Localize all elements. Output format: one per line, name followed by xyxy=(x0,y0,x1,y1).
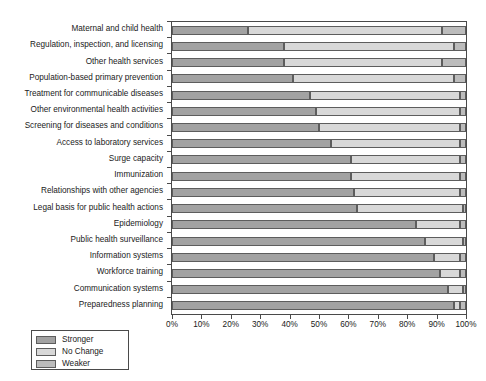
category-label: Screening for diseases and conditions xyxy=(25,118,167,134)
y-axis-tick xyxy=(167,281,171,282)
bar-row xyxy=(172,91,466,100)
bar-segment-no-change xyxy=(310,91,460,100)
category-label: Treatment for communicable diseases xyxy=(25,86,168,102)
bars-layer xyxy=(172,22,466,314)
legend-label-stronger: Stronger xyxy=(62,335,93,344)
bar-segment-weaker xyxy=(442,26,466,35)
x-axis-tick xyxy=(172,315,173,319)
y-axis-tick xyxy=(167,264,171,265)
bar-segment-no-change xyxy=(316,107,460,116)
bar-row xyxy=(172,155,466,164)
y-axis-tick xyxy=(167,183,171,184)
bar-segment-no-change xyxy=(331,139,460,148)
x-axis-tick-label: 100% xyxy=(446,320,486,329)
legend-item-weaker[interactable]: Weaker xyxy=(36,358,124,369)
category-label: Information systems xyxy=(90,248,167,264)
category-label: Communication systems xyxy=(74,281,167,297)
category-label: Relationships with other agencies xyxy=(41,183,167,199)
category-label: Access to laboratory services xyxy=(57,135,167,151)
x-axis-tick xyxy=(348,315,349,319)
bar-row xyxy=(172,139,466,148)
stacked-bar-chart: Maternal and child healthRegulation, ins… xyxy=(0,0,486,381)
bar-segment-stronger xyxy=(172,123,319,132)
bar-segment-no-change xyxy=(448,285,463,294)
y-axis-tick xyxy=(167,118,171,119)
bar-segment-weaker xyxy=(463,237,466,246)
category-label: Regulation, inspection, and licensing xyxy=(30,37,167,53)
bar-row xyxy=(172,74,466,83)
category-label: Epidemiology xyxy=(114,216,167,232)
bar-segment-weaker xyxy=(463,285,466,294)
bar-segment-weaker xyxy=(454,42,466,51)
y-axis-tick xyxy=(167,53,171,54)
bar-segment-no-change xyxy=(351,155,460,164)
category-label: Immunization xyxy=(114,167,167,183)
bar-segment-stronger xyxy=(172,188,354,197)
legend-item-no-change[interactable]: No Change xyxy=(36,346,124,357)
category-label: Other environmental health activities xyxy=(31,102,167,118)
bar-segment-stronger xyxy=(172,58,284,67)
category-label: Population-based primary prevention xyxy=(29,70,167,86)
bar-segment-no-change xyxy=(440,269,461,278)
bar-row xyxy=(172,237,466,246)
bar-segment-no-change xyxy=(434,253,460,262)
bar-segment-stronger xyxy=(172,204,357,213)
bar-segment-stronger xyxy=(172,220,416,229)
legend-item-stronger[interactable]: Stronger xyxy=(36,334,124,345)
bar-row xyxy=(172,42,466,51)
bar-row xyxy=(172,26,466,35)
bar-segment-stronger xyxy=(172,139,331,148)
bar-segment-weaker xyxy=(460,155,466,164)
legend-swatch-no-change xyxy=(36,348,56,356)
bar-segment-stronger xyxy=(172,172,351,181)
x-axis-tick xyxy=(378,315,379,319)
bar-segment-weaker xyxy=(460,139,466,148)
bar-segment-no-change xyxy=(284,42,455,51)
category-label: Preparedness planning xyxy=(79,297,167,313)
bar-row xyxy=(172,269,466,278)
x-axis-tick xyxy=(407,315,408,319)
bar-segment-no-change xyxy=(416,220,460,229)
bar-segment-weaker xyxy=(460,123,466,132)
y-axis-tick xyxy=(167,102,171,103)
legend-swatch-weaker xyxy=(36,360,56,368)
bar-segment-stronger xyxy=(172,285,448,294)
y-axis-tick xyxy=(167,37,171,38)
bar-segment-no-change xyxy=(319,123,460,132)
x-axis-tick xyxy=(231,315,232,319)
legend-label-weaker: Weaker xyxy=(62,359,90,368)
bar-segment-stronger xyxy=(172,74,293,83)
bar-segment-stronger xyxy=(172,301,454,310)
x-axis-tick xyxy=(201,315,202,319)
x-axis-tick xyxy=(319,315,320,319)
bar-row xyxy=(172,107,466,116)
bar-segment-stronger xyxy=(172,237,425,246)
category-label: Maternal and child health xyxy=(72,21,168,37)
y-axis-tick xyxy=(167,297,171,298)
bar-segment-weaker xyxy=(463,204,466,213)
category-label: Legal basis for public health actions xyxy=(33,200,167,216)
chart-legend: Stronger No Change Weaker xyxy=(31,330,129,370)
bar-segment-weaker xyxy=(460,253,466,262)
bar-segment-no-change xyxy=(284,58,443,67)
bar-segment-weaker xyxy=(442,58,466,67)
bar-row xyxy=(172,220,466,229)
bar-segment-no-change xyxy=(357,204,463,213)
bar-row xyxy=(172,204,466,213)
bar-row xyxy=(172,301,466,310)
bar-segment-stronger xyxy=(172,155,351,164)
bar-segment-no-change xyxy=(248,26,442,35)
bar-segment-no-change xyxy=(293,74,455,83)
y-axis-tick xyxy=(167,216,171,217)
bar-segment-stronger xyxy=(172,42,284,51)
y-axis-tick xyxy=(167,21,171,22)
bar-row xyxy=(172,58,466,67)
bar-row xyxy=(172,253,466,262)
bar-segment-weaker xyxy=(460,107,466,116)
x-axis-tick xyxy=(260,315,261,319)
bar-segment-weaker xyxy=(460,188,466,197)
y-axis-tick xyxy=(167,232,171,233)
bar-segment-weaker xyxy=(460,91,466,100)
bar-segment-no-change xyxy=(351,172,460,181)
category-axis-labels: Maternal and child healthRegulation, ins… xyxy=(0,21,167,315)
